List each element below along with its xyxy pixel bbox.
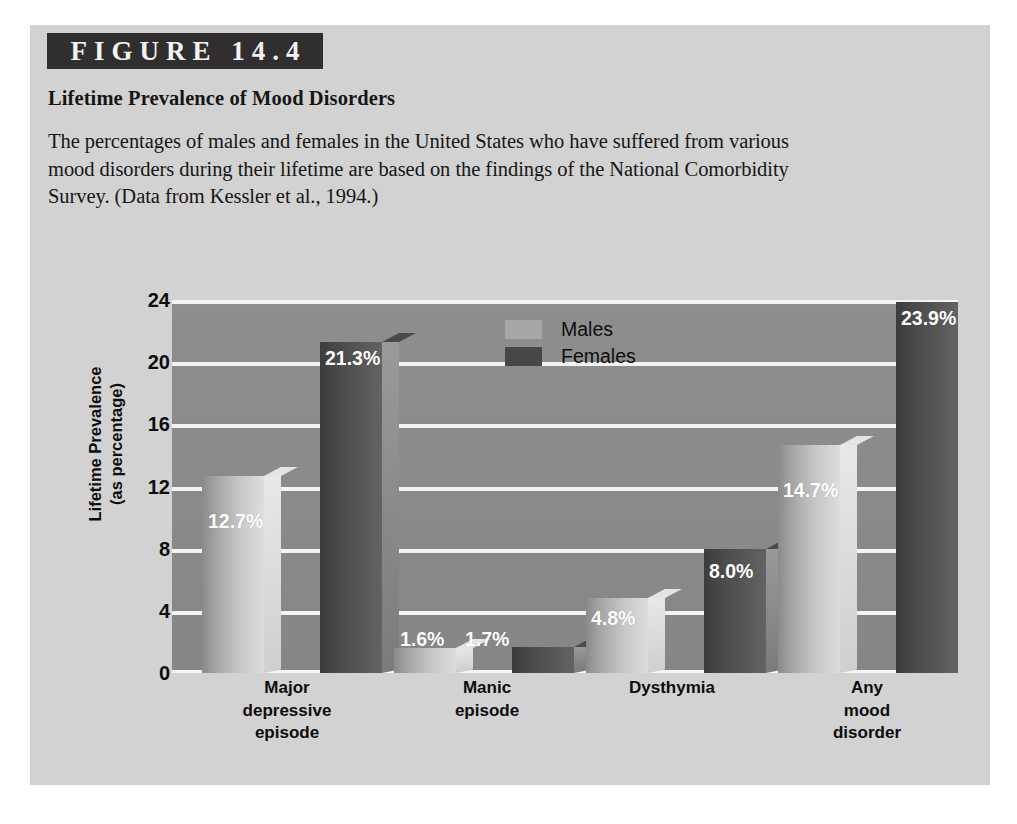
x-label-line: episode <box>387 700 587 723</box>
bar-males-manic-episode[interactable] <box>394 648 456 673</box>
bar-value-label: 1.7% <box>465 630 509 650</box>
bar-top-face <box>840 436 874 445</box>
y-tick-label: 0 <box>108 663 170 683</box>
x-axis-category-labels: Major depressive episode Manic episode D… <box>172 677 958 782</box>
bar-value-label: 4.8% <box>591 609 635 629</box>
bar-front-face <box>896 302 958 673</box>
y-tick-label: 16 <box>108 414 170 434</box>
figure-banner: FIGURE 14.4 <box>47 33 323 69</box>
y-tick-label: 12 <box>108 477 170 497</box>
figure-number-label: FIGURE 14.4 <box>63 38 306 65</box>
legend-swatch-females-icon <box>505 347 542 366</box>
x-label-major-depressive-episode: Major depressive episode <box>187 677 387 745</box>
x-label-any-mood-disorder: Any mood disorder <box>767 677 967 745</box>
bar-value-label: 1.6% <box>400 630 444 650</box>
legend-swatch-males-icon <box>505 320 542 339</box>
bar-females-manic-episode[interactable] <box>512 647 574 673</box>
x-label-line: disorder <box>767 722 967 745</box>
x-label-line: Manic <box>387 677 587 700</box>
legend-item-females[interactable]: Females <box>505 343 720 370</box>
y-axis-title-line-1: Lifetime Prevalence <box>85 314 106 574</box>
x-label-line: Any <box>767 677 967 700</box>
bar-chart: Lifetime Prevalence (as percentage) 24 2… <box>30 233 990 785</box>
y-axis-tick-labels: 24 20 16 12 8 4 0 <box>108 233 170 673</box>
bar-value-label: 23.9% <box>901 309 956 329</box>
bar-front-face <box>320 342 382 673</box>
bar-side-face <box>264 472 281 673</box>
y-tick-label: 8 <box>108 539 170 559</box>
bar-front-face <box>394 648 456 673</box>
figure-panel: FIGURE 14.4 Lifetime Prevalence of Mood … <box>30 25 990 785</box>
x-label-manic-episode: Manic episode <box>387 677 587 722</box>
bar-males-major-depressive-episode[interactable] <box>202 476 264 673</box>
x-label-line: episode <box>187 722 387 745</box>
legend-item-males[interactable]: Males <box>505 316 720 343</box>
bar-value-label: 14.7% <box>783 481 838 501</box>
plot-area: 12.7% 21.3% 1.6% 1.7% <box>172 300 958 673</box>
bar-value-label: 21.3% <box>325 349 380 369</box>
gridline-16 <box>172 424 958 428</box>
legend-label-males: Males <box>561 320 613 340</box>
bar-females-any-mood-disorder[interactable] <box>896 302 958 673</box>
bar-top-face <box>648 589 682 598</box>
gridline-24 <box>172 300 958 304</box>
x-label-line: Dysthymia <box>572 677 772 700</box>
bar-side-face <box>648 594 665 673</box>
bar-top-face <box>382 333 416 342</box>
bar-females-major-depressive-episode[interactable] <box>320 342 382 673</box>
bar-value-label: 8.0% <box>709 562 753 582</box>
legend-label-females: Females <box>561 347 636 367</box>
bar-value-label: 12.7% <box>208 512 263 532</box>
bar-side-face <box>840 441 857 673</box>
x-label-line: mood <box>767 700 967 723</box>
x-label-dysthymia: Dysthymia <box>572 677 772 700</box>
chart-legend: Males Females <box>505 316 720 370</box>
bar-side-face <box>382 338 399 673</box>
y-tick-label: 24 <box>108 290 170 310</box>
x-label-line: depressive <box>187 700 387 723</box>
figure-caption: The percentages of males and females in … <box>48 128 823 211</box>
y-tick-label: 4 <box>108 601 170 621</box>
x-label-line: Major <box>187 677 387 700</box>
y-tick-label: 20 <box>108 352 170 372</box>
bar-top-face <box>264 467 298 476</box>
bar-front-face <box>512 647 574 673</box>
figure-title: Lifetime Prevalence of Mood Disorders <box>48 87 948 110</box>
bar-front-face <box>202 476 264 673</box>
